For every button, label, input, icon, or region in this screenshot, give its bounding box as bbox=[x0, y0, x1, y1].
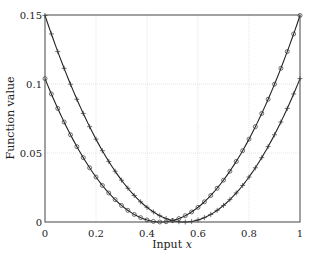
curves bbox=[43, 13, 303, 225]
plus-marker bbox=[81, 111, 86, 116]
plus-marker bbox=[278, 120, 283, 125]
x-tick-label: 0.8 bbox=[241, 228, 257, 239]
y-tick-label: 0.1 bbox=[26, 79, 42, 90]
plus-marker bbox=[74, 97, 79, 102]
y-tick-label: 0.15 bbox=[20, 10, 42, 21]
plus-marker bbox=[189, 219, 194, 224]
x-tick-label: 0 bbox=[42, 228, 48, 239]
plus-marker bbox=[100, 148, 105, 153]
plus-marker bbox=[266, 144, 271, 149]
plot-frame bbox=[45, 15, 300, 222]
plus-marker bbox=[49, 31, 54, 36]
x-tick-label: 0.6 bbox=[190, 228, 206, 239]
x-tick-label: 1 bbox=[297, 228, 303, 239]
plus-marker bbox=[87, 124, 92, 129]
y-axis-ticks: 00.050.10.15 bbox=[20, 10, 42, 228]
y-tick-label: 0 bbox=[36, 217, 42, 228]
y-axis-label: Function value bbox=[4, 77, 17, 160]
grid-lines bbox=[45, 15, 300, 222]
plus-marker bbox=[272, 132, 277, 137]
plus-marker bbox=[202, 215, 207, 220]
curve-line bbox=[45, 15, 300, 222]
plus-marker bbox=[62, 66, 67, 71]
x-axis-label: Input x bbox=[152, 238, 192, 251]
plus-marker bbox=[68, 82, 73, 87]
plus-marker bbox=[157, 213, 162, 218]
plus-marker bbox=[291, 91, 296, 96]
plus-marker bbox=[55, 49, 60, 54]
plus-marker bbox=[208, 212, 213, 217]
plus-marker bbox=[94, 137, 99, 142]
plus-marker bbox=[285, 106, 290, 111]
curve-line bbox=[45, 15, 300, 222]
chart: 00.20.40.60.81 00.050.10.15 Input x Func… bbox=[0, 0, 312, 260]
y-tick-label: 0.05 bbox=[20, 148, 42, 159]
x-tick-label: 0.2 bbox=[88, 228, 104, 239]
plus-marker bbox=[259, 155, 264, 160]
